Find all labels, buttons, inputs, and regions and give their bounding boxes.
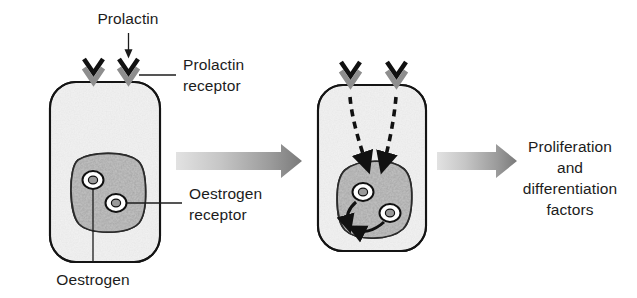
nucleoplasm [337, 161, 412, 238]
prolactin-label: Prolactin [97, 10, 158, 27]
oestrogen-receptor-label-line2: receptor [189, 206, 247, 223]
oestrogen-receptor-icon [83, 171, 104, 189]
outcome-label-line2: and [557, 159, 583, 176]
signalling-diagram: Prolactin Prolactin receptor Oestrogen r… [0, 0, 637, 298]
flow-arrow-activated-to-outcome [437, 144, 517, 178]
outcome-label-line1: Proliferation [528, 138, 612, 155]
outcome-label-line3: differentiation [523, 180, 617, 197]
resting-cell [50, 59, 160, 262]
prolactin-receptor-icon [119, 59, 138, 82]
prolactin-receptor-icon [387, 62, 406, 85]
activated-cell [318, 62, 426, 251]
oestrogen-icon [385, 209, 394, 217]
oestrogen-icon [88, 176, 97, 184]
oestrogen-receptor-label-line1: Oestrogen [189, 185, 262, 202]
nucleoplasm [71, 153, 146, 232]
oestrogen-icon [358, 188, 367, 196]
prolactin-receptor-label-line1: Prolactin [183, 56, 244, 73]
oestrogen-label: Oestrogen [56, 271, 129, 288]
prolactin-receptor-icon [341, 62, 360, 85]
oestrogen-receptor-icon [106, 194, 127, 212]
oestrogen-icon [111, 199, 120, 207]
flow-arrow-resting-to-activated [176, 144, 302, 178]
prolactin-receptor-label-line2: receptor [183, 77, 241, 94]
diagram-root: Prolactin Prolactin receptor Oestrogen r… [0, 0, 637, 298]
oestrogen-receptor-icon [380, 204, 401, 222]
outcome-label-line4: factors [546, 201, 593, 218]
prolactin-receptor-icon [84, 59, 103, 82]
oestrogen-receptor-icon [353, 183, 374, 201]
